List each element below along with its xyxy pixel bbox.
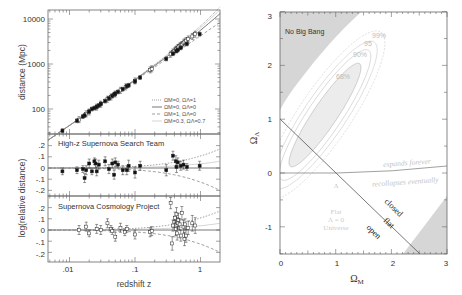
data-point (191, 35, 194, 38)
data-point (174, 216, 177, 219)
data-point (107, 168, 110, 171)
r-y-axis-title: ΩΛ (248, 132, 261, 145)
closed-label: closed (383, 196, 406, 219)
data-point (94, 162, 97, 165)
data-point (150, 230, 153, 233)
panel-label-scp: Supernova Cosmology Project (58, 202, 160, 211)
lambda-marker-label: Λ (334, 183, 339, 189)
data-point (104, 160, 107, 163)
data-point (191, 222, 194, 225)
data-point (107, 97, 110, 100)
data-point (97, 163, 100, 166)
data-point (85, 169, 88, 172)
data-point (176, 48, 179, 51)
xtick-1: 1 (198, 265, 203, 274)
r-xtick-2: 2 (391, 259, 396, 268)
data-point (171, 224, 174, 227)
expands-forever-label: expands forever (383, 157, 431, 169)
ytick-1000: 1000 (27, 60, 45, 69)
data-point (134, 80, 137, 83)
r-ytick-0: 0 (268, 169, 273, 178)
bot-ytick-neg0.2: -.2 (36, 250, 46, 259)
data-point (111, 230, 114, 233)
data-point (185, 42, 188, 45)
middle-data-points (61, 151, 201, 182)
data-point (88, 232, 91, 235)
data-point (75, 169, 78, 172)
r-ytick-3: 3 (268, 12, 273, 21)
flat-universe-label-2: Λ = 0 (328, 216, 344, 224)
legend-item-matter: ΩM=1, ΩΛ=0 (164, 111, 196, 117)
data-point (134, 233, 137, 236)
data-point (99, 229, 102, 232)
mid-ytick-0.1: .1 (38, 152, 45, 161)
data-point (88, 162, 91, 165)
r-ytick-1: 1 (268, 115, 273, 124)
data-point (179, 234, 182, 237)
data-point (165, 169, 168, 172)
curve-lambda1 (48, 149, 220, 168)
data-point (187, 226, 190, 229)
data-point (95, 227, 98, 230)
recollapses-label: recollapses eventually (372, 175, 440, 189)
data-point (139, 164, 142, 167)
legend-item-lambda1: ΩM=0, ΩΛ=1 (164, 97, 196, 103)
data-point (111, 162, 114, 165)
bot-ytick-neg0.1: -.1 (36, 238, 46, 247)
r-x-axis-title: ΩM (350, 273, 364, 286)
data-point (83, 177, 86, 180)
r-ytick-neg1: -1 (265, 223, 273, 232)
xtick-0.1: .1 (132, 265, 139, 274)
data-point (114, 235, 117, 238)
data-point (150, 67, 153, 70)
mid-ytick-0: 0 (41, 164, 46, 173)
data-point (95, 170, 98, 173)
bot-ytick-0.2: .2 (38, 204, 45, 213)
bottom-model-curves (48, 211, 220, 252)
y-axis-title-distance: distance (Mpc) (17, 44, 27, 100)
contour-label-95: 95 (364, 40, 372, 47)
data-point (116, 90, 119, 93)
data-point (134, 171, 137, 174)
r-xtick-3: 3 (444, 259, 449, 268)
expansion-boundary-line (280, 166, 447, 173)
flat-label: flat (382, 215, 398, 231)
data-point (178, 223, 181, 226)
data-point (90, 170, 93, 173)
data-point (78, 229, 81, 232)
data-point (198, 164, 201, 167)
data-point (127, 84, 130, 87)
x-axis-title: redshift z (117, 279, 152, 289)
data-point (83, 114, 86, 117)
legend-item-concordance: ΩM=0.3, ΩΛ=0.7 (164, 118, 205, 124)
middle-model-curves (48, 149, 220, 190)
data-point (185, 165, 188, 168)
legend: ΩM=0, ΩΛ=1 ΩM=0, ΩΛ=0 ΩM=1, ΩΛ=0 ΩM=0.3,… (152, 97, 205, 124)
data-point (127, 164, 130, 167)
r-xtick-1: 1 (335, 259, 340, 268)
contour-label-68: 68% (336, 73, 350, 80)
data-point (171, 242, 174, 245)
flat-universe-label-3: Universe (323, 224, 348, 232)
data-point (171, 52, 174, 55)
bot-ytick-0: 0 (41, 226, 46, 235)
xtick-0.01: .01 (62, 265, 74, 274)
no-big-bang-label: No Big Bang (285, 28, 324, 36)
contour-label-99: 99% (372, 32, 386, 39)
data-point (184, 223, 187, 226)
data-point (119, 226, 122, 229)
figure: 10000 1000 100 .2 .1 0 -.1 -.2 .2 .1 0 -… (0, 0, 462, 295)
data-point (81, 168, 84, 171)
closed-shaded-region (403, 196, 447, 254)
mid-ytick-neg0.1: -.1 (36, 175, 46, 184)
data-point (194, 224, 197, 227)
r-ytick-2: 2 (268, 61, 273, 70)
data-point (121, 88, 124, 91)
data-point (194, 33, 197, 36)
data-point (125, 227, 128, 230)
mid-ytick-0.2: .2 (38, 141, 45, 150)
data-point (183, 237, 186, 240)
bot-ytick-0.1: .1 (38, 215, 45, 224)
contour-label-90: 90% (353, 51, 367, 58)
data-point (85, 225, 88, 228)
